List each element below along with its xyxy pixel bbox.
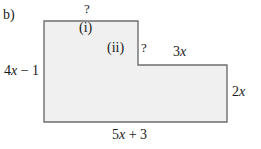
l-shaped-step-polygon (44, 21, 227, 122)
top-right-variable: x (180, 44, 186, 59)
left-side-constant: − 1 (17, 63, 39, 78)
right-side-coefficient: 2 (232, 84, 239, 99)
right-side-variable: x (239, 84, 245, 99)
left-side-dimension: 4x − 1 (4, 64, 39, 78)
bottom-side-coefficient: 5 (112, 127, 119, 142)
right-side-dimension: 2x (232, 85, 245, 99)
part-label: b) (3, 8, 15, 22)
geometry-figure: b) ? (i) (ii) ? 4x − 1 3x 2x 5x + 3 (0, 0, 261, 149)
region-i-label: (i) (79, 21, 92, 35)
region-ii-label: (ii) (107, 41, 124, 55)
top-right-coefficient: 3 (173, 44, 180, 59)
top-side-unknown-label: ? (84, 2, 90, 15)
top-right-side-dimension: 3x (173, 45, 186, 59)
notch-side-unknown-label: ? (141, 41, 147, 54)
left-side-coefficient: 4 (4, 63, 11, 78)
bottom-side-dimension: 5x + 3 (112, 128, 147, 142)
bottom-side-constant: + 3 (125, 127, 147, 142)
